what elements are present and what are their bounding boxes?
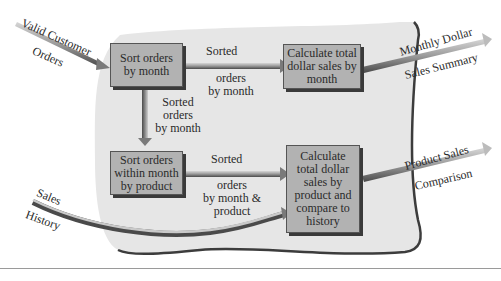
title-fragment xyxy=(175,0,375,3)
flow-label-line: by month xyxy=(203,85,259,98)
process-label: Sort orders by month xyxy=(116,52,178,78)
process-sort-by-product: Sort orders within month by product xyxy=(110,151,183,195)
flow-label-p3-p4-bottom: orders by month & product xyxy=(200,179,264,218)
caption-fragment xyxy=(0,271,501,281)
data-flow-diagram: Sort orders by month Calculate total dol… xyxy=(0,0,501,281)
flow-label-line: product xyxy=(200,205,264,218)
process-calc-sales-by-month: Calculate total dollar sales by month xyxy=(283,44,361,89)
flow-label-line: by month xyxy=(152,122,204,135)
process-calc-sales-by-product: Calculate total dollar sales by product … xyxy=(286,145,360,233)
flow-label-p1-p3: Sorted orders by month xyxy=(152,96,204,135)
process-sort-by-month: Sort orders by month xyxy=(110,43,183,87)
flow-label-p1-p2-bottom: orders by month xyxy=(203,72,259,98)
caption-divider xyxy=(0,268,501,269)
flow-label-p3-p4-top: Sorted xyxy=(211,153,242,166)
process-label: Calculate total dollar sales by product … xyxy=(289,150,357,228)
flow-label-p1-p2-top: Sorted xyxy=(206,45,237,58)
process-label: Calculate total dollar sales by month xyxy=(286,47,358,86)
process-label: Sort orders within month by product xyxy=(113,154,180,193)
